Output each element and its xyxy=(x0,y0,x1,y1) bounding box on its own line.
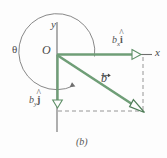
x-component-arrowhead xyxy=(132,50,141,60)
figure-canvas xyxy=(0,0,167,158)
x-axis-label: x xyxy=(155,47,160,58)
angle-arc-arrowhead xyxy=(70,82,76,87)
vector-arrow-accent-icon xyxy=(101,72,112,78)
angle-theta-label: θ xyxy=(12,44,17,55)
resultant-vector-b xyxy=(57,55,135,106)
y-component-arrowhead xyxy=(53,100,63,108)
origin-label: O xyxy=(42,44,51,56)
figure-caption: (b) xyxy=(76,136,88,147)
vector-components-figure: θ y x O bxi byj b (b) xyxy=(0,0,167,158)
i-hat-icon: i xyxy=(120,35,123,45)
j-hat-icon: j xyxy=(37,95,40,105)
y-axis-label: y xyxy=(51,19,56,30)
y-component-label: byj xyxy=(29,95,40,108)
x-component-label: bxi xyxy=(112,35,123,48)
vector-b-label: b xyxy=(101,72,107,84)
